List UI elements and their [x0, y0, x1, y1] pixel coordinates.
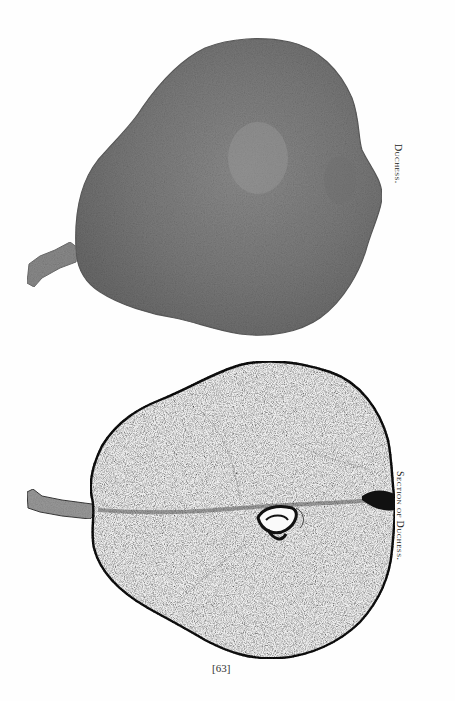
whole-pear-figure	[27, 39, 382, 336]
section-pear-stem	[27, 489, 98, 519]
section-pear-figure	[27, 361, 395, 658]
page-number: [63]	[212, 662, 230, 674]
whole-pear-eye-region	[324, 156, 356, 204]
section-pear-body	[91, 361, 395, 658]
pear-illustrations	[0, 0, 455, 701]
whole-pear-highlight	[228, 122, 288, 194]
whole-pear-stem	[27, 242, 78, 287]
figure-caption-duchess: Duchess.	[393, 144, 404, 184]
book-page: Duchess. Section of Duchess. [63]	[0, 0, 455, 701]
figure-caption-section-of-duchess: Section of Duchess.	[395, 471, 406, 560]
